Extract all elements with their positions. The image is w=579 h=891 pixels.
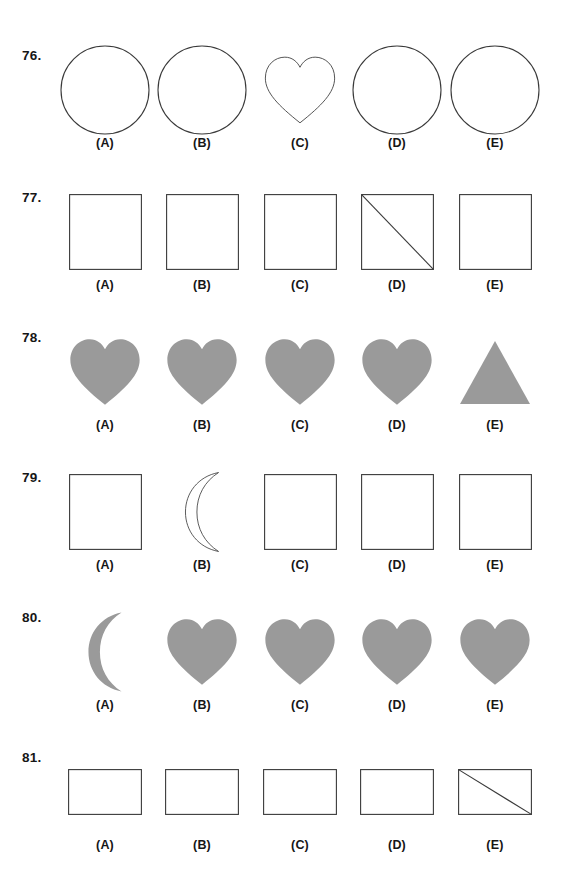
- option-label: (E): [445, 698, 545, 712]
- question-number: 78.: [22, 330, 41, 345]
- answer-option[interactable]: (D): [347, 186, 447, 306]
- question-number: 81.: [22, 750, 41, 765]
- option-label: (D): [347, 278, 447, 292]
- answer-option[interactable]: (C): [250, 186, 350, 306]
- question-number: 77.: [22, 190, 41, 205]
- option-label: (C): [250, 278, 350, 292]
- answer-option[interactable]: (A): [55, 606, 155, 726]
- heart-outline-icon: [250, 44, 350, 136]
- answer-option[interactable]: (E): [445, 466, 545, 586]
- rectangle-outline-icon: [347, 746, 447, 838]
- option-label: (A): [55, 136, 155, 150]
- option-label: (A): [55, 418, 155, 432]
- option-label: (C): [250, 558, 350, 572]
- crescent-outline-icon: [152, 466, 252, 558]
- heart-filled-icon: [152, 606, 252, 698]
- heart-filled-icon: [347, 606, 447, 698]
- option-label: (B): [152, 418, 252, 432]
- answer-option[interactable]: (D): [347, 44, 447, 164]
- rectangle-outline-icon: [250, 746, 350, 838]
- question-number: 76.: [22, 48, 41, 63]
- triangle-filled-icon: [445, 326, 545, 418]
- answer-option[interactable]: (A): [55, 746, 155, 866]
- question-row: 77.(A)(B)(C)(D)(E): [0, 186, 579, 326]
- answer-option[interactable]: (D): [347, 466, 447, 586]
- answer-option[interactable]: (B): [152, 466, 252, 586]
- square-outline-icon: [250, 186, 350, 278]
- circle-outline-icon: [347, 44, 447, 136]
- square-outline-icon: [445, 466, 545, 558]
- square-outline-icon: [347, 466, 447, 558]
- question-row: 81.(A)(B)(C)(D)(E): [0, 746, 579, 886]
- answer-option[interactable]: (C): [250, 606, 350, 726]
- answer-option[interactable]: (C): [250, 746, 350, 866]
- square-outline-icon: [55, 186, 155, 278]
- option-label: (E): [445, 838, 545, 852]
- answer-option[interactable]: (B): [152, 606, 252, 726]
- question-row: 80.(A)(B)(C)(D)(E): [0, 606, 579, 746]
- heart-filled-icon: [250, 606, 350, 698]
- rectangle-outline-icon: [152, 746, 252, 838]
- question-row: 78.(A)(B)(C)(D)(E): [0, 326, 579, 466]
- answer-option[interactable]: (E): [445, 326, 545, 446]
- option-label: (B): [152, 838, 252, 852]
- question-number: 79.: [22, 470, 41, 485]
- option-label: (C): [250, 418, 350, 432]
- answer-option[interactable]: (A): [55, 466, 155, 586]
- option-label: (E): [445, 136, 545, 150]
- square-outline-icon: [445, 186, 545, 278]
- answer-option[interactable]: (D): [347, 606, 447, 726]
- question-number: 80.: [22, 610, 41, 625]
- answer-option[interactable]: (B): [152, 746, 252, 866]
- answer-option[interactable]: (A): [55, 186, 155, 306]
- option-label: (B): [152, 558, 252, 572]
- answer-option[interactable]: (D): [347, 326, 447, 446]
- heart-filled-icon: [152, 326, 252, 418]
- option-label: (D): [347, 558, 447, 572]
- answer-option[interactable]: (A): [55, 44, 155, 164]
- option-label: (C): [250, 136, 350, 150]
- option-label: (D): [347, 136, 447, 150]
- answer-option[interactable]: (D): [347, 746, 447, 866]
- answer-option[interactable]: (B): [152, 326, 252, 446]
- option-label: (E): [445, 278, 545, 292]
- question-row: 79.(A)(B)(C)(D)(E): [0, 466, 579, 606]
- circle-outline-icon: [55, 44, 155, 136]
- circle-outline-icon: [445, 44, 545, 136]
- option-label: (A): [55, 278, 155, 292]
- option-label: (B): [152, 698, 252, 712]
- option-label: (D): [347, 838, 447, 852]
- answer-option[interactable]: (E): [445, 44, 545, 164]
- circle-outline-icon: [152, 44, 252, 136]
- option-label: (B): [152, 278, 252, 292]
- square-outline-icon: [250, 466, 350, 558]
- square-outline-icon: [55, 466, 155, 558]
- option-label: (C): [250, 698, 350, 712]
- heart-filled-icon: [55, 326, 155, 418]
- option-label: (A): [55, 838, 155, 852]
- option-label: (A): [55, 558, 155, 572]
- rectangle-outline-icon: [55, 746, 155, 838]
- heart-filled-icon: [250, 326, 350, 418]
- option-label: (D): [347, 418, 447, 432]
- option-label: (E): [445, 418, 545, 432]
- answer-option[interactable]: (E): [445, 746, 545, 866]
- worksheet-sheet: 76.(A)(B)(C)(D)(E)77.(A)(B)(C)(D)(E)78.(…: [0, 0, 579, 891]
- answer-option[interactable]: (C): [250, 466, 350, 586]
- answer-option[interactable]: (E): [445, 606, 545, 726]
- square-with-diagonal-icon: [347, 186, 447, 278]
- answer-option[interactable]: (A): [55, 326, 155, 446]
- answer-option[interactable]: (E): [445, 186, 545, 306]
- crescent-filled-icon: [55, 606, 155, 698]
- answer-option[interactable]: (B): [152, 186, 252, 306]
- square-outline-icon: [152, 186, 252, 278]
- option-label: (A): [55, 698, 155, 712]
- option-label: (B): [152, 136, 252, 150]
- option-label: (E): [445, 558, 545, 572]
- heart-filled-icon: [347, 326, 447, 418]
- answer-option[interactable]: (C): [250, 44, 350, 164]
- answer-option[interactable]: (B): [152, 44, 252, 164]
- answer-option[interactable]: (C): [250, 326, 350, 446]
- rectangle-with-diagonal-icon: [445, 746, 545, 838]
- option-label: (C): [250, 838, 350, 852]
